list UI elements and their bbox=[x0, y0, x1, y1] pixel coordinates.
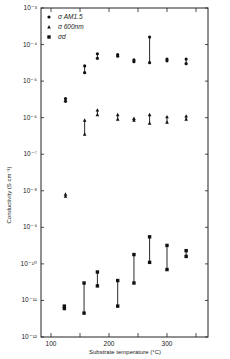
legend-label: σ AM1.5 bbox=[58, 13, 83, 20]
triangle-marker bbox=[83, 132, 87, 135]
circle-marker bbox=[83, 64, 86, 67]
y-tick-label: 10⁻⁸ bbox=[23, 187, 37, 194]
x-tick-label: 100 bbox=[46, 340, 57, 347]
triangle-marker bbox=[47, 25, 51, 28]
y-tick-label: 10⁻¹¹ bbox=[21, 296, 37, 303]
square-marker bbox=[82, 311, 85, 314]
square-marker bbox=[63, 304, 66, 307]
y-tick-label: 10⁻⁴ bbox=[23, 41, 37, 48]
square-marker bbox=[165, 268, 168, 271]
square-marker bbox=[184, 249, 187, 252]
plot-frame bbox=[41, 8, 208, 337]
square-marker bbox=[96, 284, 99, 287]
square-marker bbox=[132, 253, 135, 256]
circle-marker bbox=[148, 35, 151, 38]
circle-marker bbox=[132, 58, 135, 61]
triangle-marker bbox=[64, 192, 68, 195]
square-marker bbox=[165, 244, 168, 247]
triangle-marker bbox=[165, 115, 169, 118]
x-tick-label: 200 bbox=[104, 340, 115, 347]
y-tick-label: 10⁻⁹ bbox=[23, 223, 37, 230]
conductivity-chart: 10⁻³10⁻⁴10⁻⁵10⁻⁶10⁻⁷10⁻⁸10⁻⁹10⁻¹⁰10⁻¹¹10… bbox=[0, 0, 230, 359]
circle-marker bbox=[96, 52, 99, 55]
circle-marker bbox=[96, 57, 99, 60]
x-axis-title: Substrate temperature (°C) bbox=[89, 349, 161, 355]
data-series bbox=[63, 35, 188, 314]
circle-marker bbox=[148, 61, 151, 64]
square-marker bbox=[116, 304, 119, 307]
y-tick-label: 10⁻¹² bbox=[21, 333, 37, 340]
square-marker bbox=[82, 281, 85, 284]
series-group bbox=[63, 235, 188, 315]
legend-label: σ 600nm bbox=[58, 23, 84, 30]
square-marker bbox=[47, 35, 50, 38]
square-marker bbox=[184, 255, 187, 258]
circle-marker bbox=[47, 15, 50, 18]
square-marker bbox=[116, 279, 119, 282]
triangle-marker bbox=[184, 114, 188, 117]
circle-marker bbox=[185, 58, 188, 61]
x-axis: 100200300 bbox=[46, 8, 196, 347]
y-tick-label: 10⁻³ bbox=[24, 4, 38, 11]
triangle-marker bbox=[148, 113, 152, 116]
square-marker bbox=[148, 261, 151, 264]
square-marker bbox=[96, 270, 99, 273]
y-tick-label: 10⁻⁵ bbox=[23, 77, 37, 84]
triangle-marker bbox=[96, 113, 100, 116]
circle-marker bbox=[83, 71, 86, 74]
y-tick-label: 10⁻¹⁰ bbox=[21, 260, 37, 267]
square-marker bbox=[132, 281, 135, 284]
series-group bbox=[64, 108, 188, 198]
circle-marker bbox=[165, 58, 168, 61]
triangle-marker bbox=[83, 118, 87, 121]
circle-marker bbox=[116, 53, 119, 56]
y-tick-label: 10⁻⁶ bbox=[23, 114, 37, 121]
y-axis-title: Conductivity (S cm⁻¹) bbox=[6, 166, 12, 223]
x-tick-label: 300 bbox=[162, 340, 173, 347]
square-marker bbox=[148, 235, 151, 238]
triangle-marker bbox=[148, 121, 152, 124]
triangle-marker bbox=[116, 117, 120, 120]
legend-label: σd bbox=[58, 33, 66, 40]
y-axis: 10⁻³10⁻⁴10⁻⁵10⁻⁶10⁻⁷10⁻⁸10⁻⁹10⁻¹⁰10⁻¹¹10… bbox=[21, 4, 208, 340]
circle-marker bbox=[64, 97, 67, 100]
triangle-marker bbox=[132, 116, 136, 119]
circle-marker bbox=[185, 62, 188, 65]
triangle-marker bbox=[96, 108, 100, 111]
triangle-marker bbox=[116, 113, 120, 116]
y-tick-label: 10⁻⁷ bbox=[23, 150, 37, 157]
legend: σ AM1.5σ 600nmσd bbox=[47, 13, 84, 40]
triangle-marker bbox=[165, 120, 169, 123]
triangle-marker bbox=[184, 117, 188, 120]
series-group bbox=[64, 35, 188, 102]
